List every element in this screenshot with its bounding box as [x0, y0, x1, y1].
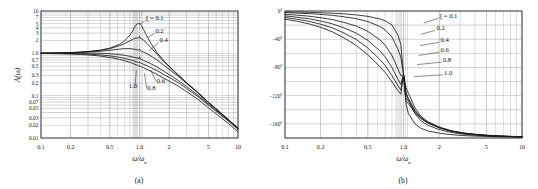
- panel-caption: (a): [135, 176, 144, 185]
- curve-label-3: 0.6: [157, 77, 166, 84]
- x-axis-title-main: ω/ω: [396, 155, 408, 163]
- curve-label-3: 0.6: [440, 46, 449, 53]
- x-axis-title-main: ω/ω: [132, 155, 144, 163]
- x-tick-label: 0.2: [317, 143, 325, 150]
- bode-plot-figure: 0.10.20.51.0251010754321.00.70.50.30.20.…: [0, 0, 538, 189]
- leader-line: [419, 52, 440, 55]
- x-tick-label: 0.1: [281, 143, 289, 150]
- panel-b-phase: 0.10.20.51.025100°−40°−80°−120°−160°ω/ωn…: [269, 8, 525, 185]
- x-tick-label: 10: [235, 143, 241, 150]
- y-tick-label: 1.0: [32, 50, 39, 56]
- x-tick-label: 5: [485, 143, 488, 150]
- leader-line: [424, 18, 438, 23]
- y-tick-label: 0.1: [32, 93, 39, 99]
- x-tick-label: 1.0: [136, 143, 144, 150]
- leader-line: [414, 75, 443, 77]
- y-tick-label: 0°: [278, 8, 283, 14]
- x-tick-labels: 0.10.20.51.02510: [281, 143, 525, 150]
- y-tick-label: 0.03: [29, 115, 39, 121]
- y-tick-label: 2: [36, 37, 39, 43]
- y-tick-label: −160°: [269, 121, 282, 127]
- x-axis-title-subscript: n: [408, 160, 411, 165]
- y-tick-label: 0.5: [32, 63, 39, 69]
- leader-line: [417, 62, 442, 64]
- x-tick-label: 5: [207, 143, 210, 150]
- curve-label-1: 0.2: [437, 24, 445, 31]
- x-tick-label: 2: [168, 143, 171, 150]
- curve-label-1: 0.2: [155, 27, 163, 34]
- y-tick-label: 0.05: [29, 105, 39, 111]
- x-tick-label: 0.2: [67, 143, 75, 150]
- y-tick-label: 0.3: [32, 72, 39, 78]
- y-tick-label: 0.07: [29, 99, 39, 105]
- curve-label-0: ξ = 0.1: [439, 12, 457, 20]
- y-tick-label: 0.02: [29, 122, 39, 128]
- leader-line: [421, 30, 435, 34]
- y-tick-label: −120°: [269, 93, 282, 99]
- curve-label-2: 0.4: [440, 36, 449, 43]
- x-tick-label: 0.5: [364, 143, 372, 150]
- x-tick-label: 0.5: [106, 143, 114, 150]
- y-tick-label: 0.01: [29, 135, 39, 141]
- y-tick-label: −40°: [272, 36, 283, 42]
- curve-label-4: 0.8: [147, 84, 156, 91]
- curve-label-4: 0.8: [443, 56, 452, 63]
- x-axis-title-subscript: n: [144, 160, 147, 165]
- curve-label-5: 1.0: [444, 69, 453, 76]
- x-axis-title: ω/ωn: [396, 155, 411, 165]
- curve-label-5: 1.0: [129, 82, 138, 89]
- curve-annotations: ξ = 0.10.20.40.60.81.0: [437, 12, 458, 75]
- y-tick-label: 10: [33, 8, 39, 14]
- figure-svg: 0.10.20.51.0251010754321.00.70.50.30.20.…: [0, 0, 538, 189]
- y-tick-label: 0.7: [32, 57, 39, 63]
- curve-label-0: ξ = 0.1: [145, 14, 163, 22]
- y-axis-title: A(ω): [14, 67, 22, 83]
- y-tick-label: 3: [36, 30, 39, 36]
- x-tick-label: 2: [438, 143, 441, 150]
- leader-line: [151, 70, 157, 81]
- x-tick-label: 10: [519, 143, 525, 150]
- vertical-gridlines: [41, 11, 238, 138]
- x-axis-title: ω/ωn: [132, 155, 147, 165]
- x-tick-labels: 0.10.20.51.02510: [37, 143, 241, 150]
- panel-caption: (b): [399, 176, 408, 185]
- y-tick-labels: 10754321.00.70.50.30.20.10.070.050.030.0…: [29, 8, 39, 141]
- panel-a-magnitude: 0.10.20.51.0251010754321.00.70.50.30.20.…: [14, 8, 241, 185]
- leader-line: [147, 33, 155, 38]
- y-tick-labels: 0°−40°−80°−120°−160°: [269, 8, 282, 127]
- curve-label-2: 0.4: [160, 36, 169, 43]
- y-tick-label: 7: [36, 14, 39, 20]
- leader-line: [420, 42, 439, 45]
- x-tick-label: 0.1: [37, 143, 45, 150]
- x-tick-label: 1.0: [400, 143, 408, 150]
- y-tick-label: 0.2: [32, 80, 39, 86]
- y-tick-label: −80°: [272, 64, 283, 70]
